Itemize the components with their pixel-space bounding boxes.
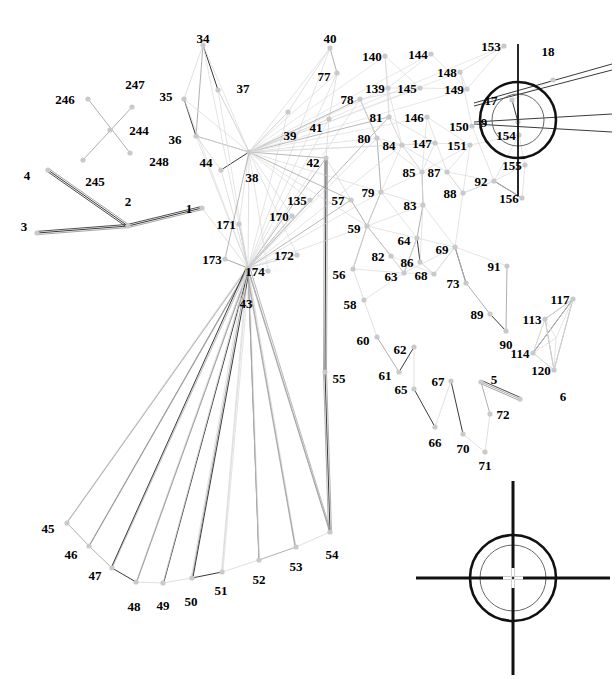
node-label-60: 60 bbox=[357, 334, 370, 347]
node-dot-57[interactable] bbox=[348, 197, 353, 202]
node-dot-1[interactable] bbox=[199, 205, 204, 210]
node-dot-146[interactable] bbox=[424, 114, 429, 119]
node-dot-173[interactable] bbox=[222, 256, 227, 261]
node-dot-83[interactable] bbox=[420, 202, 425, 207]
node-label-70: 70 bbox=[457, 442, 470, 455]
node-dot-5[interactable] bbox=[478, 379, 483, 384]
node-dot-52[interactable] bbox=[256, 557, 261, 562]
node-dot-38[interactable] bbox=[246, 149, 251, 154]
node-dot-150[interactable] bbox=[469, 123, 474, 128]
node-dot-37[interactable] bbox=[215, 87, 220, 92]
node-dot-89[interactable] bbox=[487, 311, 492, 316]
node-dot-88[interactable] bbox=[460, 190, 465, 195]
node-dot-113[interactable] bbox=[542, 316, 547, 321]
node-dot-247[interactable] bbox=[129, 104, 134, 109]
node-label-153: 153 bbox=[481, 40, 501, 53]
node-dot-45[interactable] bbox=[64, 520, 69, 525]
node-label-114: 114 bbox=[511, 347, 530, 360]
node-dot-6[interactable] bbox=[517, 396, 522, 401]
node-dot-61[interactable] bbox=[396, 369, 401, 374]
node-dot-71[interactable] bbox=[482, 449, 487, 454]
node-dot-155[interactable] bbox=[522, 162, 527, 167]
node-dot-66[interactable] bbox=[432, 424, 437, 429]
node-dot-85[interactable] bbox=[419, 169, 424, 174]
node-dot-174[interactable] bbox=[265, 268, 270, 273]
node-dot-44[interactable] bbox=[218, 167, 223, 172]
node-dot-53[interactable] bbox=[293, 544, 298, 549]
node-dot-18[interactable] bbox=[550, 77, 555, 82]
node-dot-82[interactable] bbox=[388, 253, 393, 258]
node-dot-144[interactable] bbox=[428, 51, 433, 56]
node-dot-39[interactable] bbox=[285, 109, 290, 114]
node-dot-48[interactable] bbox=[133, 579, 138, 584]
node-dot-171[interactable] bbox=[236, 221, 241, 226]
node-dot-73[interactable] bbox=[463, 280, 468, 285]
node-dot-56[interactable] bbox=[350, 266, 355, 271]
node-dot-36[interactable] bbox=[193, 133, 198, 138]
node-dot-117[interactable] bbox=[570, 296, 575, 301]
node-dot-80[interactable] bbox=[374, 135, 379, 140]
node-dot-41[interactable] bbox=[326, 116, 331, 121]
node-dot-156[interactable] bbox=[519, 195, 524, 200]
node-dot-70[interactable] bbox=[460, 431, 465, 436]
node-dot-135[interactable] bbox=[307, 197, 312, 202]
node-dot-58[interactable] bbox=[361, 297, 366, 302]
node-dot-145[interactable] bbox=[417, 85, 422, 90]
node-dot-246[interactable] bbox=[85, 96, 90, 101]
node-dot-139[interactable] bbox=[385, 85, 390, 90]
node-dot-84[interactable] bbox=[399, 142, 404, 147]
node-dot-172[interactable] bbox=[294, 252, 299, 257]
node-dot-81[interactable] bbox=[386, 114, 391, 119]
edge-49-50 bbox=[163, 578, 192, 583]
node-dot-78[interactable] bbox=[357, 96, 362, 101]
node-dot-153[interactable] bbox=[501, 43, 506, 48]
node-dot-77[interactable] bbox=[334, 70, 339, 75]
node-label-83: 83 bbox=[404, 199, 417, 212]
node-dot-65[interactable] bbox=[411, 386, 416, 391]
node-dot-55[interactable] bbox=[322, 369, 327, 374]
node-dot-4[interactable] bbox=[45, 167, 50, 172]
node-label-45: 45 bbox=[42, 522, 55, 535]
node-dot-140[interactable] bbox=[382, 53, 387, 58]
node-dot-147[interactable] bbox=[432, 140, 437, 145]
node-dot-67[interactable] bbox=[448, 378, 453, 383]
edge-34-36 bbox=[196, 45, 203, 136]
node-dot-62[interactable] bbox=[411, 344, 416, 349]
node-dot-87[interactable] bbox=[444, 169, 449, 174]
node-label-51: 51 bbox=[215, 584, 228, 597]
node-dot-49[interactable] bbox=[160, 580, 165, 585]
node-dot-120[interactable] bbox=[551, 367, 556, 372]
node-dot-47[interactable] bbox=[109, 565, 114, 570]
node-dot-54[interactable] bbox=[327, 529, 332, 534]
node-dot-40[interactable] bbox=[327, 45, 332, 50]
node-dot-148[interactable] bbox=[457, 69, 462, 74]
node-dot-35[interactable] bbox=[181, 96, 186, 101]
node-dot-91[interactable] bbox=[504, 263, 509, 268]
node-label-140: 140 bbox=[362, 50, 382, 63]
node-dot-248[interactable] bbox=[127, 150, 132, 155]
node-dot-79[interactable] bbox=[378, 189, 383, 194]
node-dot-63[interactable] bbox=[401, 270, 406, 275]
node-dot-69[interactable] bbox=[452, 244, 457, 249]
node-dot-64[interactable] bbox=[414, 235, 419, 240]
node-dot-149[interactable] bbox=[464, 86, 469, 91]
node-dot-3[interactable] bbox=[34, 230, 39, 235]
node-dot-46[interactable] bbox=[86, 543, 91, 548]
node-dot-42[interactable] bbox=[323, 155, 328, 160]
node-dot-59[interactable] bbox=[364, 223, 369, 228]
node-dot-92[interactable] bbox=[491, 178, 496, 183]
node-dot-2[interactable] bbox=[125, 223, 130, 228]
node-dot-68[interactable] bbox=[431, 271, 436, 276]
node-dot-244[interactable] bbox=[107, 127, 112, 132]
node-dot-60[interactable] bbox=[374, 334, 379, 339]
node-dot-17[interactable] bbox=[509, 97, 514, 102]
node-dot-72[interactable] bbox=[487, 411, 492, 416]
node-dot-114[interactable] bbox=[530, 350, 535, 355]
node-dot-151[interactable] bbox=[467, 142, 472, 147]
node-dot-51[interactable] bbox=[219, 569, 224, 574]
node-dot-245[interactable] bbox=[80, 157, 85, 162]
node-dot-170[interactable] bbox=[289, 213, 294, 218]
node-dot-50[interactable] bbox=[189, 575, 194, 580]
node-dot-90[interactable] bbox=[503, 328, 508, 333]
node-dot-86[interactable] bbox=[417, 259, 422, 264]
